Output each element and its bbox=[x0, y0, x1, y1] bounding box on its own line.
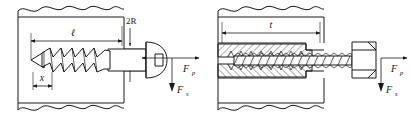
right-pullout-force-subscript: p bbox=[399, 69, 404, 76]
left-pitch-label: x bbox=[39, 72, 45, 83]
left-shear-arrowhead bbox=[169, 83, 175, 92]
right-shear-force-symbol: F bbox=[385, 84, 393, 95]
right-shear-force-subscript: s bbox=[395, 90, 398, 97]
left-length-label: ℓ bbox=[71, 27, 75, 38]
right-panel-group: t F p F s bbox=[218, 6, 407, 110]
right-thickness-label: t bbox=[270, 19, 273, 30]
right-pullout-force-symbol: F bbox=[390, 63, 398, 74]
left-screw-shank bbox=[108, 49, 146, 71]
left-pitch-dimension: x bbox=[33, 72, 52, 90]
left-pullout-force: F p bbox=[172, 58, 199, 76]
left-screw-threads bbox=[31, 48, 110, 72]
left-panel-group: ℓ 2R bbox=[18, 6, 199, 110]
right-pullout-force: F p bbox=[381, 58, 407, 76]
left-screw-head bbox=[146, 42, 167, 78]
left-diameter-label: 2R bbox=[126, 16, 137, 26]
figure-root: ℓ 2R bbox=[0, 0, 411, 120]
left-shear-force-subscript: s bbox=[186, 90, 189, 97]
left-pullout-force-symbol: F bbox=[182, 63, 190, 74]
fastener-diagram-svg: ℓ 2R bbox=[0, 0, 411, 120]
right-thickness-dimension: t bbox=[222, 19, 320, 43]
right-shear-arrowhead bbox=[378, 83, 384, 92]
left-shear-force-symbol: F bbox=[176, 84, 184, 95]
right-hex-head bbox=[352, 42, 376, 78]
left-pullout-force-subscript: p bbox=[191, 69, 196, 76]
